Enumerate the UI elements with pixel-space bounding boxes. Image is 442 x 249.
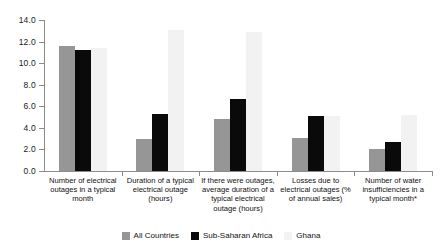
bar (369, 149, 385, 171)
bar (91, 48, 107, 171)
bar (308, 116, 324, 171)
legend-swatch-icon (122, 232, 130, 240)
bar (152, 114, 168, 171)
x-axis-category-label: Losses due to electrical outages (% of a… (277, 176, 355, 204)
bar-group (122, 20, 200, 171)
y-axis-tick-label: 8.0 (24, 80, 36, 90)
x-axis-category-label: Number of electrical outages in a typica… (44, 176, 122, 204)
legend-item[interactable]: All Countries (122, 231, 179, 240)
legend-label: Ghana (296, 231, 320, 240)
legend-swatch-icon (284, 232, 292, 240)
bar-group (354, 20, 432, 171)
bar (75, 50, 91, 171)
y-axis-tick-label: 14.0 (19, 15, 36, 25)
y-axis-tick-label: 2.0 (24, 144, 36, 154)
bar-group (277, 20, 355, 171)
bar (401, 115, 417, 171)
legend-label: All Countries (134, 231, 179, 240)
y-axis-tick-label: 0.0 (24, 166, 36, 176)
y-axis-tick (39, 171, 44, 172)
legend-label: Sub-Saharan Africa (203, 231, 272, 240)
bar (230, 99, 246, 171)
legend-item[interactable]: Sub-Saharan Africa (191, 231, 272, 240)
bar-group (44, 20, 122, 171)
x-axis-category-label: If there were outages, average duration … (199, 176, 277, 213)
bar (385, 142, 401, 171)
bar (214, 119, 230, 171)
bar (168, 30, 184, 171)
x-axis (44, 171, 432, 172)
chart-legend: All CountriesSub-Saharan AfricaGhana (0, 231, 442, 240)
bar (292, 138, 308, 171)
y-axis-tick-label: 12.0 (19, 37, 36, 47)
x-axis-category-label: Duration of a typical electrical outage … (122, 176, 200, 204)
x-axis-tick (432, 171, 433, 176)
plot-area: 0.02.04.06.08.010.012.014.0 (44, 20, 432, 171)
bar-chart: 0.02.04.06.08.010.012.014.0 All Countrie… (0, 0, 442, 249)
legend-swatch-icon (191, 232, 199, 240)
y-axis-tick-label: 6.0 (24, 101, 36, 111)
y-axis-tick-label: 10.0 (19, 58, 36, 68)
bar (136, 139, 152, 171)
x-axis-category-label: Number of water insufficiencies in a typ… (354, 176, 432, 204)
bar (246, 32, 262, 171)
bar-group (199, 20, 277, 171)
bar (59, 46, 75, 171)
y-axis-tick-label: 4.0 (24, 123, 36, 133)
legend-item[interactable]: Ghana (284, 231, 320, 240)
bar (324, 116, 340, 171)
